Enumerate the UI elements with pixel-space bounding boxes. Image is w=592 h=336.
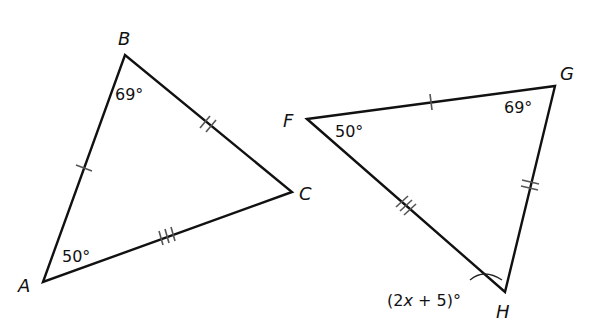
side-fg-tick-mark — [430, 94, 432, 110]
angle-label-g: 69° — [504, 98, 532, 117]
angle-label-f: 50° — [335, 122, 363, 141]
triangle-fgh: F G H 50° 69° (2x + 5)° — [283, 63, 574, 322]
angle-label-h-variable: x — [402, 291, 413, 310]
angle-label-h-prefix: (2 — [387, 291, 403, 310]
vertex-label-f: F — [283, 110, 294, 131]
vertex-label-g: G — [560, 63, 574, 84]
vertex-label-a: A — [17, 275, 30, 296]
vertex-label-c: C — [299, 183, 312, 204]
diagram-canvas: B A C 69° 50° F G H 50° 69° (2x + 5)° — [0, 0, 592, 336]
vertex-label-b: B — [118, 28, 130, 49]
angle-label-h: (2x + 5)° — [387, 291, 461, 310]
vertex-label-h: H — [496, 301, 510, 322]
angle-label-b: 69° — [115, 85, 143, 104]
triangle-abc: B A C 69° 50° — [17, 28, 312, 296]
angle-label-a: 50° — [62, 247, 90, 266]
angle-label-h-suffix: + 5)° — [413, 291, 461, 310]
